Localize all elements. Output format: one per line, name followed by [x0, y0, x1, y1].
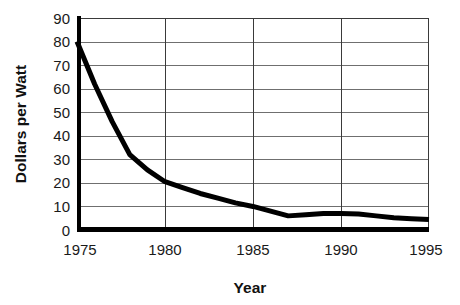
y-tick-label-70: 70: [53, 57, 70, 74]
line-chart: 0102030405060708090 19751980198519901995…: [0, 0, 460, 305]
x-tick-label-1995: 1995: [409, 241, 442, 258]
x-axis-title: Year: [234, 279, 267, 296]
y-tick-label-50: 50: [53, 104, 70, 121]
y-tick-label-0: 0: [62, 222, 70, 239]
x-tick-label-1985: 1985: [236, 241, 269, 258]
y-tick-label-80: 80: [53, 33, 70, 50]
x-tick-label-1980: 1980: [148, 241, 181, 258]
y-tick-label-90: 90: [53, 10, 70, 27]
y-tick-label-40: 40: [53, 127, 70, 144]
y-tick-label-20: 20: [53, 174, 70, 191]
y-tick-label-60: 60: [53, 80, 70, 97]
y-tick-label-10: 10: [53, 198, 70, 215]
x-tick-label-1975: 1975: [63, 241, 96, 258]
y-tick-label-30: 30: [53, 151, 70, 168]
y-axis-title: Dollars per Watt: [12, 65, 29, 183]
x-tick-label-1990: 1990: [324, 241, 357, 258]
chart-container: 0102030405060708090 19751980198519901995…: [0, 0, 460, 305]
